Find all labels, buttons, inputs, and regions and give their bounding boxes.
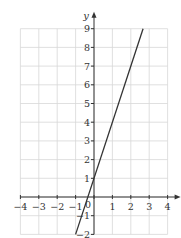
- x-axis-arrow-icon: [175, 195, 181, 200]
- x-tick-label: 2: [128, 201, 134, 212]
- x-tick-label: 4: [165, 201, 171, 212]
- x-tick-label: 3: [146, 201, 152, 212]
- y-tick-label: 4: [84, 117, 90, 128]
- y-tick-label: 6: [84, 79, 90, 90]
- y-axis-label: y: [82, 10, 89, 21]
- line-chart: y−4−3−2−11234−2−11234567890: [0, 0, 181, 238]
- y-tick-label: 8: [84, 42, 90, 53]
- x-tick-label: −2: [50, 201, 64, 212]
- y-tick-label: 1: [84, 173, 90, 184]
- y-axis-arrow-icon: [92, 12, 97, 18]
- x-tick-label: 1: [109, 201, 115, 212]
- x-tick-label: −3: [32, 201, 46, 212]
- y-tick-label: 9: [84, 23, 90, 34]
- x-tick-label: −4: [13, 201, 27, 212]
- y-tick-label: −2: [76, 229, 90, 238]
- y-tick-label: 7: [84, 61, 90, 72]
- y-tick-label: 5: [84, 98, 90, 109]
- y-tick-label: 3: [84, 135, 90, 146]
- y-tick-label: 2: [84, 154, 90, 165]
